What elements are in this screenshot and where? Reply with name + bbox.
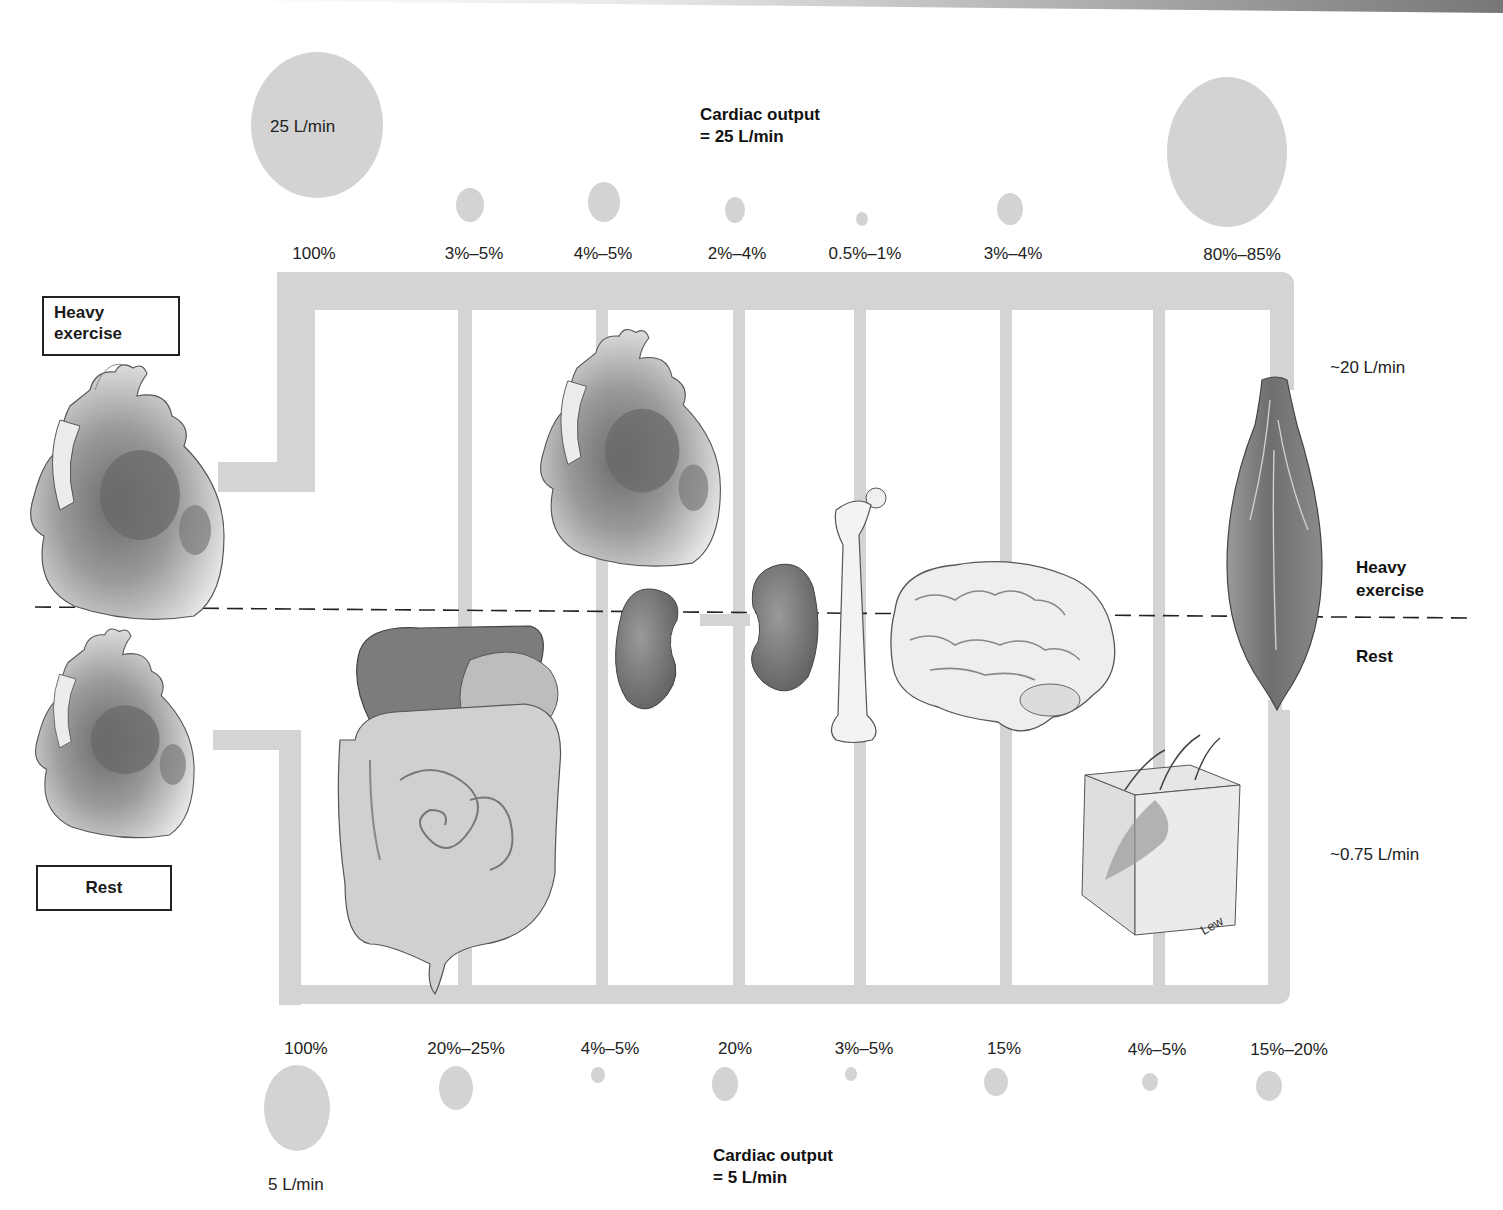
rest-pct-bone: 3%–5% bbox=[835, 1039, 894, 1059]
rest-pct-total: 100% bbox=[284, 1039, 327, 1059]
circle-heart-rest bbox=[591, 1067, 605, 1083]
circle-digestive-rest bbox=[439, 1066, 473, 1110]
rest-pct-muscle: 15%–20% bbox=[1250, 1040, 1328, 1060]
circle-kidney-exercise bbox=[725, 197, 745, 223]
rest-pct-skin: 4%–5% bbox=[1128, 1040, 1187, 1060]
rest-cardiac-output-title: Cardiac output bbox=[713, 1145, 833, 1167]
exercise-cardiac-output-title: Cardiac output bbox=[700, 104, 820, 126]
circle-total-rest bbox=[264, 1065, 330, 1151]
circle-muscle-exercise bbox=[1167, 77, 1287, 227]
exercise-pct-heart: 4%–5% bbox=[574, 244, 633, 264]
exercise-pct-bone: 0.5%–1% bbox=[829, 244, 902, 264]
total-exercise-circle-label: 25 L/min bbox=[270, 117, 335, 137]
muscle-flow-exercise-label: ~20 L/min bbox=[1330, 358, 1405, 378]
heart-rest-illustration bbox=[36, 629, 195, 838]
divider-upper-label-line1: Heavy bbox=[1356, 556, 1424, 579]
circle-skin-rest bbox=[1142, 1073, 1158, 1091]
rest-cardiac-output: Cardiac output = 5 L/min bbox=[713, 1145, 833, 1189]
heart-organ-illustration bbox=[541, 329, 721, 566]
circle-brain-rest bbox=[984, 1068, 1008, 1096]
exercise-cardiac-output-value: = 25 L/min bbox=[700, 126, 820, 148]
exercise-cardiac-output: Cardiac output = 25 L/min bbox=[700, 104, 820, 148]
rest-pct-digestive: 20%–25% bbox=[427, 1039, 505, 1059]
circle-bone-exercise bbox=[856, 212, 868, 226]
circle-muscle-rest bbox=[1256, 1071, 1282, 1101]
circle-bone-rest bbox=[845, 1067, 857, 1081]
heavy-exercise-box-line2: exercise bbox=[54, 323, 168, 344]
heart-exercise-illustration bbox=[31, 364, 224, 619]
skeletal-muscle-illustration bbox=[1227, 377, 1322, 710]
exercise-pct-total: 100% bbox=[292, 244, 335, 264]
heavy-exercise-box: Heavy exercise bbox=[42, 296, 180, 356]
exercise-pct-kidneys: 2%–4% bbox=[708, 244, 767, 264]
total-rest-circle-label: 5 L/min bbox=[268, 1175, 324, 1195]
circle-heart-exercise bbox=[588, 182, 620, 222]
circle-kidney-rest bbox=[712, 1067, 738, 1101]
rest-cardiac-output-value: = 5 L/min bbox=[713, 1167, 833, 1189]
digestive-system-illustration bbox=[338, 626, 560, 994]
divider-upper-label: Heavy exercise bbox=[1356, 556, 1424, 602]
exercise-pct-brain: 3%–4% bbox=[984, 244, 1043, 264]
bone-illustration bbox=[831, 488, 886, 743]
exercise-pct-muscle: 80%–85% bbox=[1203, 245, 1281, 265]
rest-pct-heart: 4%–5% bbox=[581, 1039, 640, 1059]
rest-pct-kidneys: 20% bbox=[718, 1039, 752, 1059]
divider-lower-label: Rest bbox=[1356, 645, 1393, 668]
circulation-diagram bbox=[0, 0, 1503, 1210]
divider-upper-label-line2: exercise bbox=[1356, 579, 1424, 602]
skin-flow-rest-label: ~0.75 L/min bbox=[1330, 845, 1419, 865]
brain-illustration bbox=[891, 562, 1115, 731]
circle-brain-exercise bbox=[997, 193, 1023, 225]
heavy-exercise-box-line1: Heavy bbox=[54, 302, 168, 323]
rest-pct-brain: 15% bbox=[987, 1039, 1021, 1059]
rest-box: Rest bbox=[36, 865, 172, 911]
rest-circles bbox=[264, 1065, 1282, 1151]
exercise-pct-digestive: 3%–5% bbox=[445, 244, 504, 264]
circle-digestive-exercise bbox=[456, 188, 484, 222]
kidneys-illustration bbox=[616, 564, 818, 709]
